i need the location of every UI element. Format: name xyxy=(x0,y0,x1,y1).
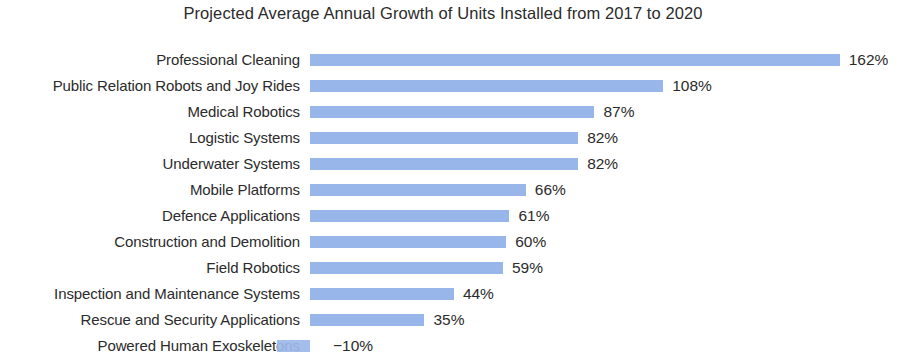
bar-track: 35% xyxy=(310,307,424,333)
bar-value-label: 35% xyxy=(424,307,464,333)
bar-track: 87% xyxy=(310,99,594,125)
bar-track: 44% xyxy=(310,281,454,307)
bar xyxy=(310,132,578,144)
bar-track: 61% xyxy=(310,203,509,229)
bar-row: Logistic Systems82% xyxy=(0,125,901,151)
bar-row: Defence Applications61% xyxy=(0,203,901,229)
bar-row: Professional Cleaning162% xyxy=(0,47,901,73)
bar-value-label: 44% xyxy=(454,281,494,307)
bar-row: Underwater Systems82% xyxy=(0,151,901,177)
bar-row: Construction and Demolition60% xyxy=(0,229,901,255)
bar xyxy=(310,236,506,248)
bar-track: 82% xyxy=(310,151,578,177)
bar xyxy=(310,106,594,118)
bar-value-label: 61% xyxy=(509,203,549,229)
category-label: Powered Human Exoskeletons xyxy=(0,333,300,358)
category-label: Professional Cleaning xyxy=(0,47,300,73)
category-label: Construction and Demolition xyxy=(0,229,300,255)
bar-row: Inspection and Maintenance Systems44% xyxy=(0,281,901,307)
bar xyxy=(310,262,503,274)
category-label: Underwater Systems xyxy=(0,151,300,177)
category-label: Inspection and Maintenance Systems xyxy=(0,281,300,307)
bar-track: 108% xyxy=(310,73,663,99)
category-label: Rescue and Security Applications xyxy=(0,307,300,333)
plot-area: Professional Cleaning162%Public Relation… xyxy=(0,40,901,358)
bar xyxy=(310,184,526,196)
bar-value-label: 82% xyxy=(578,125,618,151)
bar xyxy=(310,54,840,66)
chart-title: Projected Average Annual Growth of Units… xyxy=(0,4,886,23)
bar-value-label: 59% xyxy=(503,255,543,281)
bar-value-label: 162% xyxy=(840,47,889,73)
bar-value-label: 108% xyxy=(663,73,712,99)
category-label: Defence Applications xyxy=(0,203,300,229)
category-label: Mobile Platforms xyxy=(0,177,300,203)
bar-row: Public Relation Robots and Joy Rides108% xyxy=(0,73,901,99)
category-label: Field Robotics xyxy=(0,255,300,281)
bar xyxy=(310,288,454,300)
bar-row: Medical Robotics87% xyxy=(0,99,901,125)
bar-row: Mobile Platforms66% xyxy=(0,177,901,203)
category-label: Medical Robotics xyxy=(0,99,300,125)
bar-row: Field Robotics59% xyxy=(0,255,901,281)
bar-track: 162% xyxy=(310,47,840,73)
bar-value-label: 87% xyxy=(594,99,634,125)
category-label: Logistic Systems xyxy=(0,125,300,151)
bar-track: 60% xyxy=(310,229,506,255)
bar-row: Powered Human Exoskeletons−10% xyxy=(0,333,901,358)
bar-track: 66% xyxy=(310,177,526,203)
category-label: Public Relation Robots and Joy Rides xyxy=(0,73,300,99)
bar-track: 82% xyxy=(310,125,578,151)
bar-value-label: 82% xyxy=(578,151,618,177)
bar-value-label: 66% xyxy=(526,177,566,203)
bar xyxy=(277,340,310,352)
bar xyxy=(310,80,663,92)
bar-chart-figure: Projected Average Annual Growth of Units… xyxy=(0,0,901,358)
bar-track: 59% xyxy=(310,255,503,281)
bar xyxy=(310,158,578,170)
bar-track: −10% xyxy=(277,333,310,358)
bar-value-label: 60% xyxy=(506,229,546,255)
bar-value-label: −10% xyxy=(324,333,373,358)
bar-row: Rescue and Security Applications35% xyxy=(0,307,901,333)
bar xyxy=(310,210,509,222)
bar xyxy=(310,314,424,326)
